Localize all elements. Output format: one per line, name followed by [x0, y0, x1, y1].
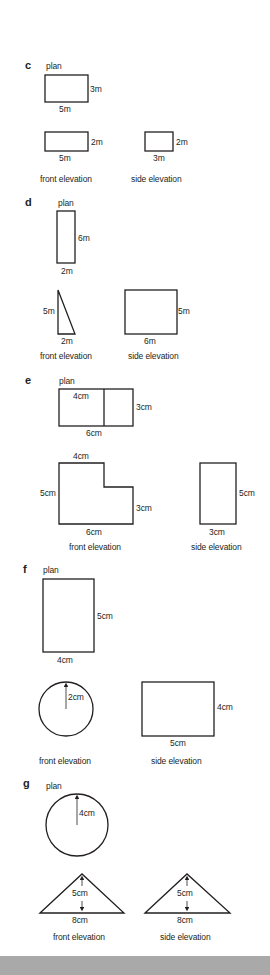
- g-side-caption: side elevation: [160, 932, 211, 942]
- problem-f-label: f: [23, 563, 27, 575]
- c-front-rect: [45, 132, 88, 151]
- g-side-width-label: 8cm: [177, 915, 193, 925]
- d-side-width-label: 6m: [144, 336, 156, 346]
- d-plan-rect: [57, 211, 75, 263]
- f-side-rect: [142, 682, 214, 736]
- c-plan-caption: plan: [46, 61, 62, 71]
- e-front-left-label: 5cm: [40, 488, 56, 498]
- c-front-width-label: 5m: [59, 153, 71, 163]
- problem-d-label: d: [25, 196, 32, 208]
- c-plan-height-label: 3m: [90, 84, 102, 94]
- f-side-caption: side elevation: [151, 756, 202, 766]
- d-front-caption: front elevation: [40, 351, 92, 361]
- d-front-height-label: 5m: [43, 306, 55, 316]
- f-side-width-label: 5cm: [170, 738, 186, 748]
- e-plan-rect: [59, 389, 133, 426]
- e-plan-caption: plan: [59, 376, 75, 386]
- problem-g-label: g: [23, 777, 30, 789]
- g-front-caption: front elevation: [53, 932, 105, 942]
- d-side-height-label: 5m: [178, 306, 190, 316]
- d-plan-height-label: 6m: [78, 233, 90, 243]
- e-front-l-shape: [59, 463, 133, 524]
- d-plan-caption: plan: [58, 198, 74, 208]
- footer-band: [0, 956, 270, 975]
- f-plan-width-label: 4cm: [57, 655, 73, 665]
- d-plan-width-label: 2m: [61, 266, 73, 276]
- d-front-width-label: 2m: [61, 336, 73, 346]
- f-plan-caption: plan: [43, 565, 59, 575]
- g-side-height-label: 5cm: [177, 888, 193, 898]
- f-plan-height-label: 5cm: [97, 611, 113, 621]
- c-side-caption: side elevation: [131, 174, 182, 184]
- c-front-caption: front elevation: [40, 174, 92, 184]
- e-front-right-label: 3cm: [136, 503, 152, 513]
- c-side-width-label: 3m: [153, 153, 165, 163]
- e-side-caption: side elevation: [191, 542, 242, 552]
- e-side-height-label: 5cm: [239, 488, 255, 498]
- problem-e-label: e: [25, 374, 31, 386]
- e-front-width-label: 6cm: [86, 527, 102, 537]
- d-side-caption: side elevation: [128, 351, 179, 361]
- f-side-height-label: 4cm: [217, 702, 233, 712]
- d-front-triangle: [58, 290, 75, 334]
- c-plan-rect: [45, 75, 88, 102]
- problem-c-label: c: [25, 59, 31, 71]
- e-plan-width-label: 6cm: [86, 428, 102, 438]
- e-plan-top-label: 4cm: [73, 391, 89, 401]
- c-front-height-label: 2m: [91, 137, 103, 147]
- c-side-rect: [145, 132, 173, 151]
- e-side-rect: [200, 463, 236, 524]
- e-front-caption: front elevation: [69, 542, 121, 552]
- f-plan-rect: [43, 579, 94, 652]
- g-front-height-label: 5cm: [72, 888, 88, 898]
- e-side-width-label: 3cm: [209, 527, 225, 537]
- f-front-caption: front elevation: [39, 756, 91, 766]
- e-plan-height-label: 3cm: [136, 402, 152, 412]
- f-front-radius-label: 2cm: [68, 692, 84, 702]
- e-front-top-label: 4cm: [73, 451, 89, 461]
- g-front-width-label: 8cm: [72, 915, 88, 925]
- g-plan-radius-label: 4cm: [79, 808, 95, 818]
- g-plan-caption: plan: [46, 781, 62, 791]
- c-plan-width-label: 5m: [59, 104, 71, 114]
- c-side-height-label: 2m: [176, 137, 188, 147]
- d-side-rect: [125, 290, 177, 334]
